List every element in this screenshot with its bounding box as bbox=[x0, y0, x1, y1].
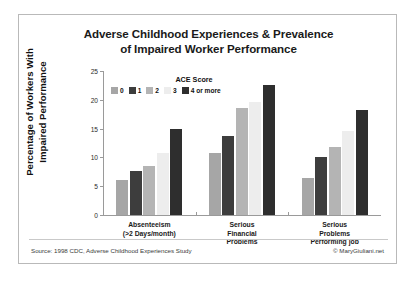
chart-title: Adverse Childhood Experiences & Prevalen… bbox=[19, 27, 398, 56]
footer-divider bbox=[29, 239, 388, 240]
chart-title-line1: Adverse Childhood Experiences & Prevalen… bbox=[84, 27, 334, 40]
bar bbox=[143, 166, 155, 215]
legend-swatch-icon bbox=[164, 87, 171, 94]
y-tick-label: 10 bbox=[91, 154, 98, 161]
bar-group bbox=[288, 71, 381, 215]
y-tick-label: 25 bbox=[91, 68, 98, 75]
legend-swatch-icon bbox=[129, 87, 136, 94]
bar bbox=[342, 131, 354, 215]
x-axis-line bbox=[103, 215, 381, 216]
bar bbox=[116, 180, 128, 215]
y-axis-title-line1: Percentage of Workers With bbox=[24, 37, 37, 187]
legend-label: 3 bbox=[173, 87, 177, 94]
legend-title: ACE Score bbox=[117, 75, 271, 84]
bar bbox=[302, 178, 314, 215]
legend-label: 1 bbox=[138, 87, 142, 94]
legend-label: 0 bbox=[120, 87, 124, 94]
bar bbox=[236, 108, 248, 215]
bar bbox=[222, 136, 234, 215]
legend-item: 2 bbox=[146, 87, 159, 94]
legend-swatch-icon bbox=[111, 87, 118, 94]
legend-label: 2 bbox=[155, 87, 159, 94]
category-label-line: Problems bbox=[275, 230, 395, 239]
legend-item: 0 bbox=[111, 87, 124, 94]
legend-swatch-icon bbox=[146, 87, 153, 94]
y-tick-label: 20 bbox=[91, 96, 98, 103]
y-axis-title: Percentage of Workers With Impaired Perf… bbox=[24, 37, 54, 187]
y-tick-label: 5 bbox=[94, 183, 98, 190]
legend-item: 4 or more bbox=[182, 87, 221, 94]
source-note: Source: 1998 CDC, Adverse Childhood Expe… bbox=[31, 247, 192, 254]
bar bbox=[356, 110, 368, 215]
bar bbox=[263, 85, 275, 215]
bar bbox=[315, 157, 327, 215]
legend-item: 1 bbox=[129, 87, 142, 94]
chart-frame: Adverse Childhood Experiences & Prevalen… bbox=[18, 14, 397, 264]
legend-items: 01234 or more bbox=[111, 87, 271, 94]
bar bbox=[329, 147, 341, 215]
legend-label: 4 or more bbox=[191, 87, 221, 94]
y-tick-label: 15 bbox=[91, 125, 98, 132]
y-tick-mark bbox=[100, 215, 103, 216]
bar bbox=[209, 153, 221, 215]
bar bbox=[130, 171, 142, 215]
bar bbox=[170, 129, 182, 215]
bar bbox=[249, 102, 261, 215]
chart-legend: ACE Score 01234 or more bbox=[111, 75, 271, 94]
legend-item: 3 bbox=[164, 87, 177, 94]
x-axis-category-label: SeriousProblemsPerforming job bbox=[275, 221, 395, 247]
y-axis-title-line2: Impaired Performance bbox=[37, 37, 50, 187]
bar bbox=[157, 153, 169, 215]
legend-swatch-icon bbox=[182, 87, 189, 94]
copyright-note: © MaryGiuliani.net bbox=[333, 247, 384, 254]
category-label-line: Serious bbox=[275, 221, 395, 230]
y-tick-label: 0 bbox=[94, 212, 98, 219]
chart-title-line2: of Impaired Worker Performance bbox=[19, 42, 398, 57]
